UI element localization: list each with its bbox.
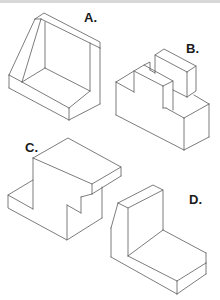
shape-b xyxy=(116,49,209,150)
shape-label-d: D. xyxy=(189,193,202,206)
shape-label-a: A. xyxy=(84,11,97,24)
shape-a xyxy=(9,13,100,120)
shape-label-c: C. xyxy=(25,141,38,154)
shape-label-b: B. xyxy=(186,42,199,55)
